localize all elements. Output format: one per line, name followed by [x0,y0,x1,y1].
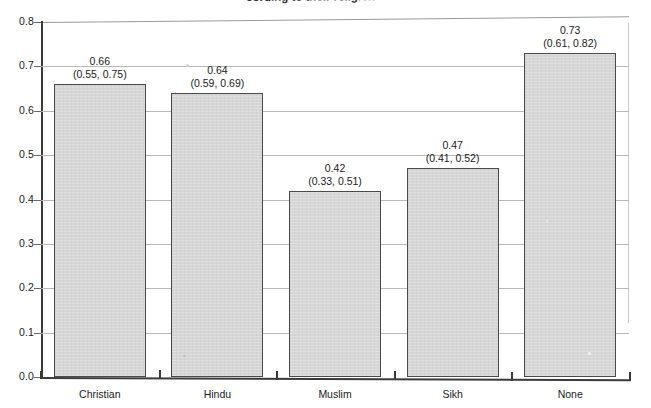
y-tick-mark [34,288,41,289]
x-tick-mark [159,370,161,379]
y-tick-mark [34,155,41,156]
scan-speckle [588,352,591,355]
y-tick-label: 0.3 [0,237,34,249]
y-tick-label: 0.4 [0,193,34,205]
x-axis-line [40,377,631,381]
bar-value-label-sikh: 0.47(0.41, 0.52) [393,139,513,164]
y-tick-mark [34,22,41,23]
x-tick-mark [276,371,278,380]
confidence-interval: (0.55, 0.75) [40,68,160,81]
bar-none[interactable] [524,53,616,377]
y-tick-mark [34,333,41,334]
point-estimate: 0.42 [275,162,395,175]
y-tick-mark [34,244,41,245]
y-tick-label: 0.5 [0,148,34,160]
y-tick-label: 0.8 [0,15,34,27]
point-estimate: 0.73 [510,24,630,37]
bar-texture [408,169,498,376]
confidence-interval: (0.33, 0.51) [275,175,395,188]
bar-hindu[interactable] [171,93,263,377]
y-tick-label: 0.0 [0,370,34,382]
bar-value-label-christian: 0.66(0.55, 0.75) [40,55,160,80]
scan-speckle [186,64,189,67]
x-tick-mark [394,371,396,380]
bar-texture [172,94,262,376]
x-axis-right-cap [629,372,631,380]
confidence-interval: (0.61, 0.82) [510,37,630,50]
x-label-sikh: Sikh [393,388,513,400]
bar-value-label-hindu: 0.64(0.59, 0.69) [157,64,277,89]
y-tick-mark [34,111,41,112]
bar-sikh[interactable] [407,168,499,377]
y-tick-label: 0.7 [0,59,34,71]
x-tick-mark [511,372,513,381]
bar-chart: 0.00.10.20.30.40.50.60.70.8 0.66(0.55, 0… [0,0,651,408]
point-estimate: 0.66 [40,55,160,68]
y-tick-label: 0.1 [0,326,34,338]
x-label-christian: Christian [40,388,160,400]
bar-texture [290,192,380,376]
x-label-none: None [510,388,630,400]
bar-value-label-none: 0.73(0.61, 0.82) [510,24,630,49]
y-tick-label: 0.6 [0,104,34,116]
point-estimate: 0.64 [157,64,277,77]
bar-texture [525,54,615,376]
bar-texture [55,85,145,376]
x-label-hindu: Hindu [157,388,277,400]
bar-christian[interactable] [54,84,146,377]
bar-value-label-muslim: 0.42(0.33, 0.51) [275,162,395,187]
point-estimate: 0.47 [393,139,513,152]
scan-speckle [546,220,548,222]
confidence-interval: (0.59, 0.69) [157,77,277,90]
plot-right-border [628,23,629,323]
y-tick-label: 0.2 [0,281,34,293]
x-axis-left-cap [40,371,41,379]
plot-top-border [41,16,629,23]
y-tick-mark [34,200,41,201]
scan-speckle [183,355,186,357]
x-label-muslim: Muslim [275,388,395,400]
bar-muslim[interactable] [289,191,381,377]
confidence-interval: (0.41, 0.52) [393,152,513,165]
